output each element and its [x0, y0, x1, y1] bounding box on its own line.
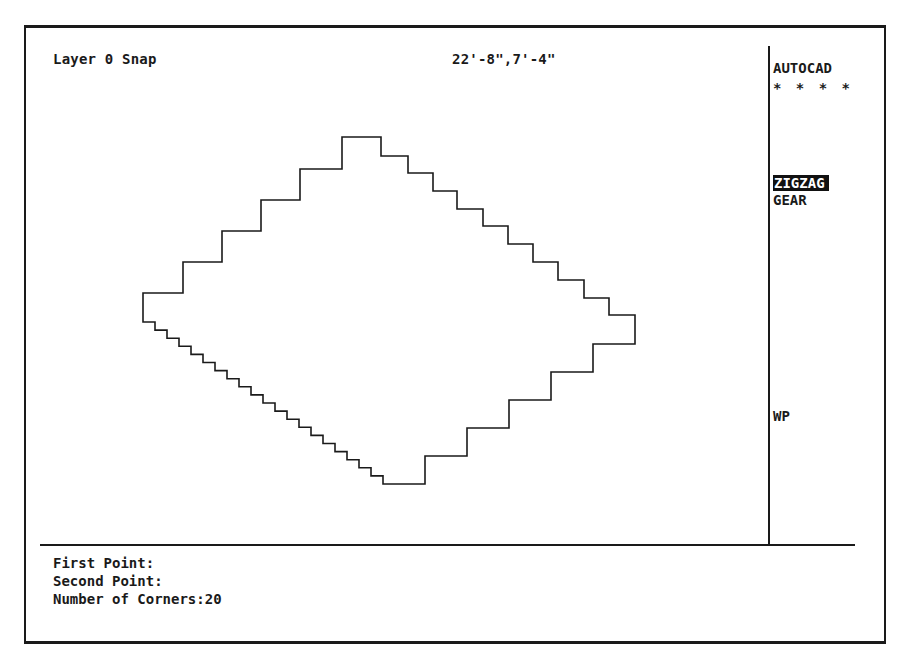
zigzag-shape [143, 137, 635, 484]
drawing-area[interactable] [0, 0, 904, 662]
